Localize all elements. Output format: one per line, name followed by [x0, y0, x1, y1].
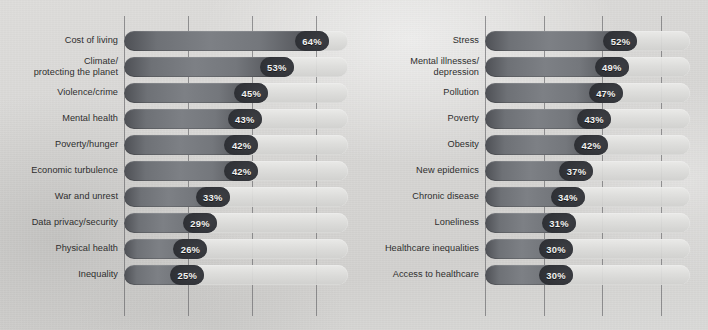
- bar-value-label: 29%: [190, 218, 210, 229]
- bar-value-cap: 64%: [295, 31, 329, 51]
- bar-category-label: Mental health: [6, 113, 118, 124]
- bar-row[interactable]: Access to healthcare30%: [354, 262, 690, 288]
- bar-row[interactable]: Stress52%: [354, 28, 690, 54]
- bar-track: 29%: [124, 213, 348, 233]
- bar-track: 30%: [485, 265, 690, 285]
- bar-track: 45%: [124, 83, 348, 103]
- bar-row[interactable]: Physical health26%: [0, 236, 348, 262]
- bar-value-cap: 53%: [260, 57, 294, 77]
- bar-value-cap: 42%: [574, 135, 608, 155]
- bar-track: 43%: [124, 109, 348, 129]
- bar-row[interactable]: Poverty/hunger42%: [0, 132, 348, 158]
- bar-row[interactable]: Obesity42%: [354, 132, 690, 158]
- bar-track: 34%: [485, 187, 690, 207]
- bar-value-label: 43%: [235, 114, 255, 125]
- bar-value-cap: 30%: [539, 239, 573, 259]
- bar-row[interactable]: Data privacy/security29%: [0, 210, 348, 236]
- bar-track: 31%: [485, 213, 690, 233]
- bar-value-label: 30%: [546, 270, 566, 281]
- bar-value-cap: 52%: [603, 31, 637, 51]
- chart-page: Cost of living64%Climate/ protecting the…: [0, 0, 708, 330]
- bar-category-label: Poverty: [367, 113, 479, 124]
- bar-category-label: Stress: [367, 35, 479, 46]
- bar-value-cap: 43%: [577, 109, 611, 129]
- bar-track: 33%: [124, 187, 348, 207]
- bar-row[interactable]: Chronic disease34%: [354, 184, 690, 210]
- bar-category-label: New epidemics: [367, 165, 479, 176]
- bar-track: 42%: [124, 135, 348, 155]
- bar-category-label: Inequality: [6, 269, 118, 280]
- bar-track: 43%: [485, 109, 690, 129]
- bar-row[interactable]: Poverty43%: [354, 106, 690, 132]
- bar-category-label: Physical health: [6, 243, 118, 254]
- bar-value-label: 64%: [302, 36, 322, 47]
- bar-row[interactable]: War and unrest33%: [0, 184, 348, 210]
- bar-category-label: Data privacy/security: [6, 217, 118, 228]
- bar-value-cap: 34%: [551, 187, 585, 207]
- bar-value-label: 37%: [567, 166, 587, 177]
- bar-track: 37%: [485, 161, 690, 181]
- bar-category-label: Pollution: [367, 87, 479, 98]
- bar-row[interactable]: Climate/ protecting the planet53%: [0, 54, 348, 80]
- bar-row[interactable]: Inequality25%: [0, 262, 348, 288]
- bar-value-cap: 45%: [234, 83, 268, 103]
- bar-category-label: Access to healthcare: [367, 269, 479, 280]
- bar-row[interactable]: Loneliness31%: [354, 210, 690, 236]
- bar-category-label: Violence/crime: [6, 87, 118, 98]
- bar-category-label: Loneliness: [367, 217, 479, 228]
- bar-value-label: 34%: [558, 192, 578, 203]
- bar-category-label: Mental illnesses/ depression: [367, 56, 479, 79]
- bar-value-cap: 37%: [559, 161, 593, 181]
- bar-value-cap: 43%: [228, 109, 262, 129]
- bar-category-label: Healthcare inequalities: [367, 243, 479, 254]
- bar-track: 30%: [485, 239, 690, 259]
- bar-value-cap: 25%: [170, 265, 204, 285]
- bar-value-label: 31%: [549, 218, 569, 229]
- bar-value-label: 25%: [177, 270, 197, 281]
- bar-category-label: Cost of living: [6, 35, 118, 46]
- bar-category-label: Climate/ protecting the planet: [6, 56, 118, 79]
- bar-value-label: 42%: [581, 140, 601, 151]
- bar-track: 52%: [485, 31, 690, 51]
- bar-row[interactable]: Cost of living64%: [0, 28, 348, 54]
- bar-track: 42%: [124, 161, 348, 181]
- bar-value-cap: 49%: [595, 57, 629, 77]
- bar-row[interactable]: New epidemics37%: [354, 158, 690, 184]
- bar-value-label: 45%: [241, 88, 261, 99]
- bar-track: 53%: [124, 57, 348, 77]
- bar-track: 25%: [124, 265, 348, 285]
- bar-value-label: 30%: [546, 244, 566, 255]
- bar-value-label: 52%: [611, 36, 631, 47]
- bar-value-label: 53%: [267, 62, 287, 73]
- bar-value-cap: 33%: [196, 187, 230, 207]
- bar-value-cap: 42%: [224, 161, 258, 181]
- bar-value-cap: 29%: [183, 213, 217, 233]
- bar-value-cap: 30%: [539, 265, 573, 285]
- bar-row[interactable]: Pollution47%: [354, 80, 690, 106]
- bar-value-label: 42%: [232, 140, 252, 151]
- bar-category-label: Obesity: [367, 139, 479, 150]
- bar-value-cap: 31%: [542, 213, 576, 233]
- bar-track: 64%: [124, 31, 348, 51]
- bar-value-label: 47%: [596, 88, 616, 99]
- bar-value-cap: 42%: [224, 135, 258, 155]
- bar-track: 47%: [485, 83, 690, 103]
- bar-category-label: Economic turbulence: [6, 165, 118, 176]
- bar-track: 49%: [485, 57, 690, 77]
- bar-category-label: Poverty/hunger: [6, 139, 118, 150]
- bar-row[interactable]: Violence/crime45%: [0, 80, 348, 106]
- bar-row[interactable]: Economic turbulence42%: [0, 158, 348, 184]
- bar-value-label: 26%: [181, 244, 201, 255]
- bar-value-cap: 47%: [589, 83, 623, 103]
- bar-row[interactable]: Mental health43%: [0, 106, 348, 132]
- bar-category-label: Chronic disease: [367, 191, 479, 202]
- bar-value-label: 49%: [602, 62, 622, 73]
- bar-track: 42%: [485, 135, 690, 155]
- chart-panel-left: Cost of living64%Climate/ protecting the…: [0, 0, 354, 330]
- bar-row[interactable]: Mental illnesses/ depression49%: [354, 54, 690, 80]
- chart-panel-right: Stress52%Mental illnesses/ depression49%…: [354, 0, 708, 330]
- bar-value-cap: 26%: [173, 239, 207, 259]
- bar-value-label: 42%: [232, 166, 252, 177]
- bar-row[interactable]: Healthcare inequalities30%: [354, 236, 690, 262]
- bar-track: 26%: [124, 239, 348, 259]
